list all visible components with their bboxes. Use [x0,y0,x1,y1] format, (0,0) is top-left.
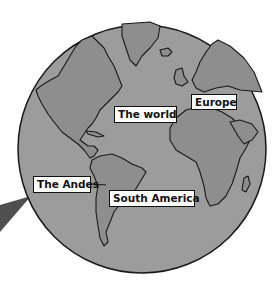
globe-diagram: The world Europe South America The Andes [0,0,272,283]
pointer-wedge [0,196,31,232]
label-south-america: South America [109,190,195,207]
label-the-andes: The Andes [33,176,91,193]
label-europe: Europe [191,94,237,110]
label-the-world: The world [114,106,177,123]
globe-map [0,0,272,283]
